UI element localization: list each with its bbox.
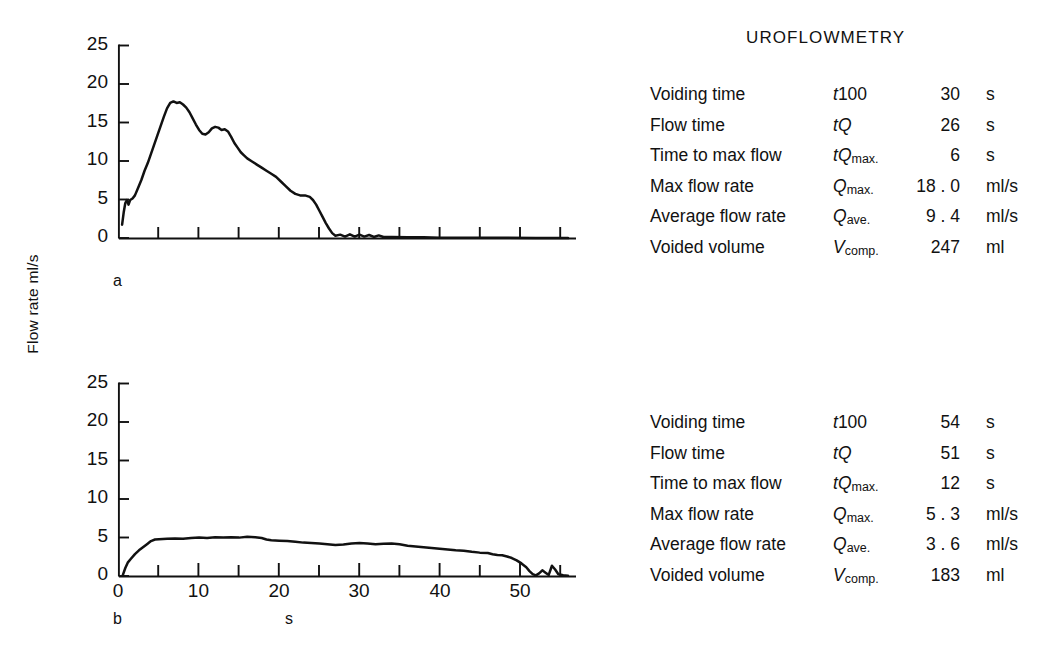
x-axis-caption: s (285, 610, 293, 628)
parameter-value: 247 (898, 237, 960, 258)
parameter-unit: ml/s (986, 534, 1018, 555)
parameter-symbol: tQmax. (833, 145, 879, 166)
parameter-label: Average flow rate (650, 534, 786, 555)
parameter-unit: s (986, 473, 995, 494)
parameter-label: Flow time (650, 443, 725, 464)
parameter-unit: ml/s (986, 504, 1018, 525)
parameter-value: 183 (898, 565, 960, 586)
parameter-value: 51 (898, 443, 960, 464)
parameter-unit: s (986, 84, 995, 105)
parameter-value: 6 (898, 145, 960, 166)
parameter-unit: s (986, 115, 995, 136)
parameter-symbol: t100 (833, 412, 867, 433)
uroflow-chart-b (118, 382, 588, 582)
parameter-value: 3 . 6 (898, 534, 960, 555)
parameter-label: Flow time (650, 115, 725, 136)
parameter-unit: ml (986, 565, 1004, 586)
parameter-unit: ml/s (986, 176, 1018, 197)
parameter-symbol: Qmax. (833, 176, 874, 197)
chart-panel-b: 25 20 15 10 5 0 0 10 20 30 40 50 (118, 382, 578, 578)
parameter-label: Voided volume (650, 565, 765, 586)
panel-letter-b: b (113, 610, 122, 628)
y-ticks-b (119, 384, 129, 577)
parameter-symbol: tQmax. (833, 473, 879, 494)
parameter-label: Time to max flow (650, 145, 782, 166)
parameter-value: 54 (898, 412, 960, 433)
panel-letter-a: a (113, 272, 122, 290)
report-title: UROFLOWMETRY (746, 28, 905, 48)
parameter-label: Voided volume (650, 237, 765, 258)
parameter-value: 30 (898, 84, 960, 105)
parameter-label: Voiding time (650, 412, 745, 433)
uroflow-chart-a (118, 44, 588, 244)
parameter-label: Time to max flow (650, 473, 782, 494)
x-ticks-b (158, 563, 560, 577)
parameter-symbol: t100 (833, 84, 867, 105)
parameter-label: Average flow rate (650, 206, 786, 227)
parameter-symbol: Qave. (833, 206, 870, 227)
parameter-unit: ml/s (986, 206, 1018, 227)
parameter-value: 26 (898, 115, 960, 136)
parameter-value: 5 . 3 (898, 504, 960, 525)
parameter-symbol: Vcomp. (833, 565, 879, 586)
parameter-unit: s (986, 412, 995, 433)
uroflowmetry-figure: Flow rate ml/s 25 (0, 0, 1037, 647)
parameter-symbol: Qmax. (833, 504, 874, 525)
parameter-label: Voiding time (650, 84, 745, 105)
chart-panel-a: 25 20 15 10 5 0 (118, 44, 578, 240)
parameter-label: Max flow rate (650, 176, 754, 197)
parameter-label: Max flow rate (650, 504, 754, 525)
parameter-value: 18 . 0 (898, 176, 960, 197)
parameter-symbol: tQ (833, 115, 852, 136)
flow-curve-a (122, 101, 568, 238)
parameter-unit: s (986, 145, 995, 166)
parameter-unit: s (986, 443, 995, 464)
flow-curve-b (123, 537, 568, 576)
parameter-symbol: tQ (833, 443, 852, 464)
parameter-symbol: Vcomp. (833, 237, 879, 258)
y-axis-label: Flow rate ml/s (24, 214, 42, 394)
parameter-unit: ml (986, 237, 1004, 258)
parameter-symbol: Qave. (833, 534, 870, 555)
parameter-value: 9 . 4 (898, 206, 960, 227)
parameter-value: 12 (898, 473, 960, 494)
